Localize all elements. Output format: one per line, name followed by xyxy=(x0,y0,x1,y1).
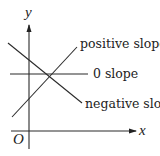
negative-slope-line xyxy=(8,43,82,103)
slope-diagram: y x O positive slope 0 slope negative sl… xyxy=(0,0,160,156)
negative-slope-label: negative slope xyxy=(85,96,160,111)
origin-label: O xyxy=(13,131,24,147)
zero-slope-label: 0 slope xyxy=(93,66,138,81)
y-axis-label: y xyxy=(23,4,32,20)
positive-slope-line xyxy=(12,47,77,117)
x-axis-label: x xyxy=(138,122,146,138)
positive-slope-label: positive slope xyxy=(80,36,160,51)
